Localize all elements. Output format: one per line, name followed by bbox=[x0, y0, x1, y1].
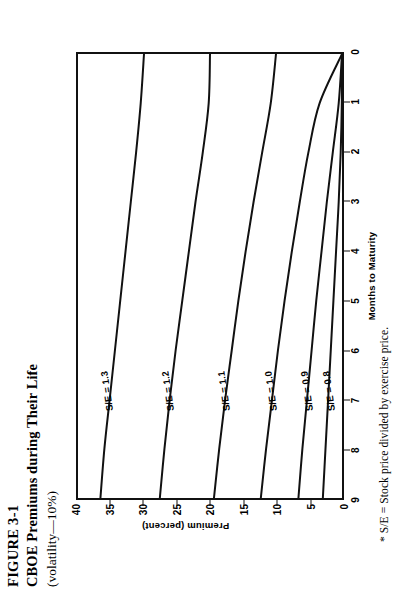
x-tick-label: 0 bbox=[350, 44, 361, 60]
x-tick-label: 6 bbox=[350, 343, 361, 359]
curve-line bbox=[214, 54, 276, 498]
x-axis-label: Months to Maturity bbox=[366, 52, 377, 500]
x-tick-mark bbox=[344, 350, 350, 351]
figure-number: FIGURE 3-1 bbox=[6, 167, 22, 587]
x-tick-mark bbox=[344, 400, 350, 401]
y-tick-label: 25 bbox=[171, 504, 182, 524]
curve-line bbox=[160, 54, 210, 498]
y-tick-label: 20 bbox=[205, 504, 216, 524]
figure-title: CBOE Premiums during Their Life bbox=[25, 167, 41, 587]
x-tick-mark bbox=[344, 251, 350, 252]
x-tick-label: 9 bbox=[350, 492, 361, 508]
y-tick-label: 35 bbox=[104, 504, 115, 524]
curve-line bbox=[100, 54, 144, 498]
x-tick-label: 4 bbox=[350, 243, 361, 259]
y-tick-label: 5 bbox=[305, 504, 316, 524]
plot-area bbox=[76, 52, 344, 500]
y-tick-label: 30 bbox=[138, 504, 149, 524]
x-tick-label: 7 bbox=[350, 392, 361, 408]
x-tick-label: 5 bbox=[350, 293, 361, 309]
y-tick-mark bbox=[277, 500, 278, 506]
y-tick-mark bbox=[310, 500, 311, 506]
y-tick-label: 0 bbox=[339, 504, 350, 524]
x-tick-label: 1 bbox=[350, 94, 361, 110]
x-tick-label: 2 bbox=[350, 144, 361, 160]
y-tick-label: 10 bbox=[272, 504, 283, 524]
x-tick-mark bbox=[344, 101, 350, 102]
y-tick-mark bbox=[243, 500, 244, 506]
figure-page: FIGURE 3-1 CBOE Premiums during Their Li… bbox=[0, 0, 408, 597]
y-tick-mark bbox=[143, 500, 144, 506]
figure-footnote: * S/E = Stock price divided by exercise … bbox=[378, 327, 390, 542]
x-tick-mark bbox=[344, 300, 350, 301]
figure-title-block: FIGURE 3-1 CBOE Premiums during Their Li… bbox=[6, 167, 60, 587]
y-tick-label: 15 bbox=[238, 504, 249, 524]
y-tick-label: 40 bbox=[71, 504, 82, 524]
y-tick-mark bbox=[176, 500, 177, 506]
x-tick-mark bbox=[344, 201, 350, 202]
curve-line bbox=[261, 54, 342, 498]
x-tick-label: 3 bbox=[350, 193, 361, 209]
chart-container: Premium (percent) 4035302520151050 S/E =… bbox=[76, 42, 366, 542]
y-tick-mark bbox=[109, 500, 110, 506]
x-tick-label: 8 bbox=[350, 442, 361, 458]
curve-line bbox=[323, 54, 342, 498]
curve-lines bbox=[78, 54, 342, 498]
x-tick-mark bbox=[344, 450, 350, 451]
x-tick-mark bbox=[344, 151, 350, 152]
y-tick-mark bbox=[210, 500, 211, 506]
figure-subtitle: (volatility—10%) bbox=[45, 167, 60, 587]
